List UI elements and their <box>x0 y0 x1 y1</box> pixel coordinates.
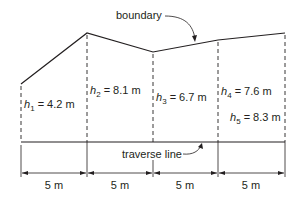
offset-label-h1: h1 = 4.2 m <box>24 98 75 113</box>
offset-label-h5: h5 = 8.3 m <box>230 111 281 126</box>
interval-label-3: 5 m <box>176 179 194 191</box>
traverse-label: traverse line <box>122 148 182 160</box>
offset-label-h4: h4 = 7.6 m <box>221 85 272 100</box>
interval-label-1: 5 m <box>45 179 63 191</box>
offset-label-h3: h3 = 6.7 m <box>156 91 207 106</box>
interval-label-2: 5 m <box>111 179 129 191</box>
offset-diagram: boundary traverse line h1 = 4.2 m h2 = 8… <box>0 0 302 199</box>
traverse-leader-arrow <box>183 145 201 154</box>
interval-label-4: 5 m <box>242 179 260 191</box>
offset-label-h2: h2 = 8.1 m <box>90 84 141 99</box>
boundary-leader-arrow <box>165 16 195 39</box>
boundary-label: boundary <box>116 9 162 21</box>
